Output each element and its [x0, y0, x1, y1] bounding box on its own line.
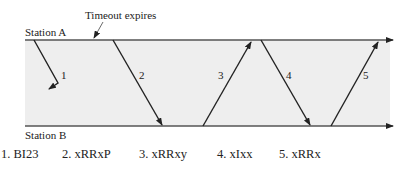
frame-5-number: 5 [363, 69, 369, 81]
legend-frame-4: 4. xIxx [217, 147, 252, 162]
legend-frame-1: 1. BI23 [1, 147, 39, 162]
legend-frame-2: 2. xRRxP [62, 147, 111, 162]
frame-2-arrow [113, 40, 162, 125]
legend-frame-3: 3. xRRxy [139, 147, 187, 162]
frame-4-number: 4 [286, 69, 292, 81]
legend-frame-5: 5. xRRx [279, 147, 321, 162]
frame-1-arrow [34, 40, 58, 89]
station-b-label: Station B [25, 129, 66, 141]
frame-1-number: 1 [61, 69, 67, 81]
frame-3-number: 3 [218, 69, 224, 81]
frame-5-arrow [331, 42, 378, 126]
frame-2-number: 2 [139, 69, 145, 81]
timeout-pointer [94, 22, 103, 38]
frame-4-arrow [261, 40, 310, 125]
timeout-label: Timeout expires [85, 9, 156, 21]
frame-3-arrow [203, 42, 251, 126]
station-a-label: Station A [25, 26, 66, 38]
